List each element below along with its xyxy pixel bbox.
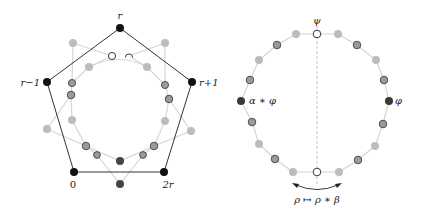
label-map: ρ ↦ ρ ∗ β — [293, 194, 340, 205]
node-medium — [82, 142, 90, 150]
node-psi — [313, 30, 321, 38]
node-light — [289, 168, 297, 176]
node-medium — [94, 152, 101, 159]
node-light — [255, 140, 263, 148]
label-zero: 0 — [70, 179, 76, 190]
node-open — [108, 52, 115, 59]
node-light — [85, 63, 93, 71]
label-r-minus-1: r−1 — [20, 77, 40, 88]
node-light — [143, 63, 151, 71]
node-medium — [67, 91, 75, 99]
node-medium — [380, 76, 388, 84]
node-light — [68, 116, 76, 124]
node-light — [292, 30, 300, 38]
node-medium — [161, 81, 168, 88]
node-light — [372, 56, 380, 64]
node-phi — [385, 97, 393, 105]
node-medium — [379, 120, 387, 128]
label-phi: φ — [395, 95, 402, 106]
node-open-partial — [125, 54, 132, 58]
light-nodes — [43, 39, 195, 135]
node-bottom-open — [313, 168, 321, 176]
node-light — [69, 39, 77, 47]
vertex-r-plus-1 — [188, 78, 196, 86]
node-light — [255, 56, 263, 64]
label-psi: ψ — [313, 15, 321, 26]
node-medium — [271, 155, 279, 163]
label-r-plus-1: r+1 — [199, 77, 219, 88]
vertex-r-minus-1 — [43, 78, 51, 86]
node-light — [334, 30, 342, 38]
node-medium — [354, 156, 362, 164]
label-2r: 2r — [161, 179, 174, 190]
left-diagram: r r+1 r−1 0 2r — [20, 10, 218, 190]
node-medium — [248, 118, 256, 126]
open-nodes — [108, 52, 132, 59]
node-dark — [116, 180, 124, 188]
node-light — [335, 168, 343, 176]
node-medium — [150, 142, 158, 150]
node-light — [43, 125, 51, 133]
node-dark — [116, 157, 124, 165]
node-medium — [68, 79, 75, 86]
label-alpha-phi: α ∗ φ — [249, 95, 276, 106]
node-light — [371, 142, 379, 150]
node-light — [187, 127, 195, 135]
vertex-2r — [160, 168, 168, 176]
vertex-r — [116, 24, 124, 32]
node-alpha-phi — [237, 97, 245, 105]
node-medium — [140, 152, 147, 159]
node-light — [161, 117, 169, 125]
diagram-canvas: r r+1 r−1 0 2r — [0, 0, 421, 213]
node-light — [161, 39, 169, 47]
node-medium — [165, 95, 173, 103]
node-medium — [273, 41, 281, 49]
right-diagram: ψ φ α ∗ φ ρ ↦ ρ ∗ β — [237, 15, 402, 205]
vertex-0 — [70, 168, 78, 176]
label-r: r — [118, 10, 124, 21]
medium-nodes — [67, 79, 173, 158]
node-medium — [246, 76, 254, 84]
node-medium — [353, 41, 361, 49]
